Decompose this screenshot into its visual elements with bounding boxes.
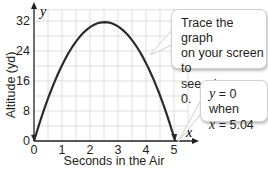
callout-line: x = 5.04 (209, 117, 267, 133)
trace-instruction-callout: Trace the graph on your screen to see wh… (171, 9, 267, 69)
x-axis-label: Seconds in the Air (34, 154, 194, 168)
callout-line: y = 0 when (209, 86, 267, 117)
callout-line: Trace the graph (181, 16, 266, 46)
svg-text:32: 32 (16, 14, 30, 28)
svg-text:0: 0 (23, 134, 30, 148)
tick-labels: 01234508162432 (16, 14, 177, 157)
svg-text:24: 24 (16, 44, 30, 58)
svg-text:16: 16 (16, 74, 30, 88)
svg-text:8: 8 (23, 104, 30, 118)
zero-result-callout: y = 0 when x = 5.04 (200, 80, 268, 122)
callout-line: on your screen to (181, 46, 266, 76)
y-axis-name: y (38, 4, 47, 19)
y-axis-label: Altitude (yd) (4, 40, 18, 130)
altitude-curve[interactable] (34, 22, 175, 141)
